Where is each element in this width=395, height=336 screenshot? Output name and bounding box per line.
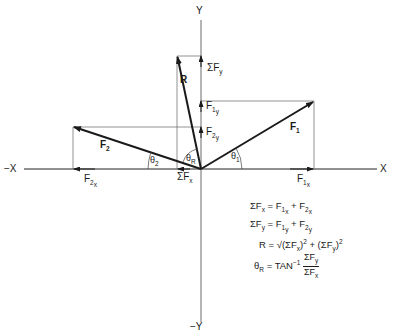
vector-f2 xyxy=(74,127,201,169)
y-axis-label: Y xyxy=(196,6,203,16)
equation-theta-r: θR = TAN−1 ΣFyΣFx xyxy=(254,252,319,281)
f2-label: F2 xyxy=(100,140,110,154)
r-label: R xyxy=(180,75,187,85)
theta1-label: θ1 xyxy=(231,151,240,165)
x-axis-label: X xyxy=(380,164,387,174)
equation-sum-fy: ΣFy = F1y + F2y xyxy=(250,218,312,235)
sumfy-label: ΣFy xyxy=(207,63,223,77)
neg-y-axis-label: −Y xyxy=(190,322,203,332)
f1x-label: F1x xyxy=(297,174,310,190)
f1y-label: F1y xyxy=(206,101,219,117)
f1-label: F1 xyxy=(290,122,300,136)
f2y-label: F2y xyxy=(206,127,219,143)
neg-x-axis-label: −X xyxy=(4,164,17,174)
f2x-label: F2x xyxy=(84,174,97,190)
thetar-label: θR xyxy=(186,153,196,167)
force-diagram xyxy=(0,0,395,336)
equation-sum-fx: ΣFx = F1x + F2x xyxy=(250,200,312,217)
sumfx-label: ΣFx xyxy=(177,172,193,186)
tan-fraction: ΣFyΣFx xyxy=(303,252,319,281)
theta2-label: θ2 xyxy=(150,155,159,169)
